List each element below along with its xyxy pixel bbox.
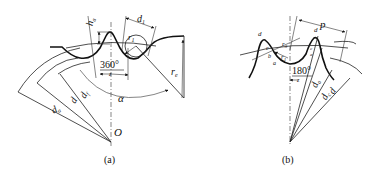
label-pt-a: a <box>273 60 276 66</box>
label-r1: r1 <box>128 32 135 43</box>
outer-arc-b2 <box>330 58 362 74</box>
d-radius-line <box>37 83 111 142</box>
label-r3: r3 <box>282 40 288 49</box>
label-d1: d1 <box>137 13 145 25</box>
alpha-arc <box>80 70 168 98</box>
figure-a: ha d1 r1 360° z α re da d df O (a) <box>18 13 184 166</box>
tooth-profile <box>50 32 184 59</box>
label-center-O: O <box>114 126 122 138</box>
label-pt-c: c <box>266 45 269 51</box>
pitch-arc-b <box>240 45 348 55</box>
label-pt-d: d <box>258 30 262 38</box>
label-re: re <box>171 66 178 78</box>
sprocket-tooth-diagram: ha d1 r1 360° z α re da d df O (a) <box>0 0 367 180</box>
outer-arc-b <box>334 41 356 44</box>
root-circle-arc <box>58 62 90 74</box>
label-pt-d1: d <box>314 26 318 34</box>
label-pt-c2: c <box>310 46 313 51</box>
label-ha: ha <box>84 17 97 27</box>
figure-b: p 180° z da dc d r3 r1 a b c d d c a (b) <box>240 16 362 166</box>
pitch-diameter-arc <box>37 58 78 83</box>
label-df: df <box>77 88 91 101</box>
label-angle-360: 360° <box>100 59 119 70</box>
radial-line-1 <box>290 36 318 142</box>
da-radius-line <box>18 92 111 142</box>
label-angle-180: 180° <box>292 65 311 76</box>
label-p: p <box>319 18 326 30</box>
label-r1-b: r1 <box>281 53 286 62</box>
label-pt-b: b <box>268 53 271 59</box>
caption-a: (a) <box>104 154 115 166</box>
label-alpha: α <box>118 92 124 104</box>
df-radius-line <box>60 74 111 142</box>
label-angle-z-b: z <box>296 77 300 83</box>
radial-line-3 <box>290 78 350 142</box>
caption-b: (b) <box>282 154 294 166</box>
label-da-b: da <box>308 78 322 90</box>
